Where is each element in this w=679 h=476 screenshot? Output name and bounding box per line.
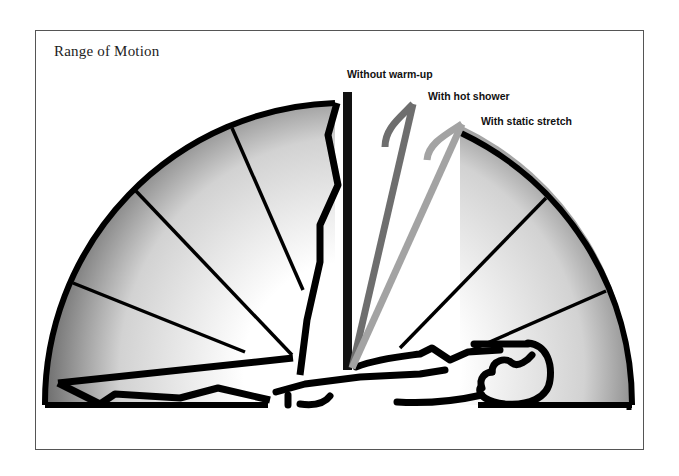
range-of-motion-diagram (0, 0, 679, 476)
fan-background (45, 103, 632, 405)
leg-without-warmup (343, 92, 352, 370)
